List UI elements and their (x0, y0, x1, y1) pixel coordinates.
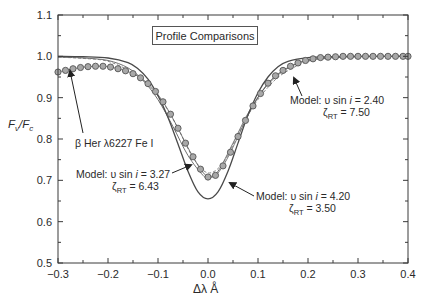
data-point-circle-icon (317, 54, 323, 60)
data-point-circle-icon (287, 63, 293, 69)
chart-title-text: Profile Comparisons (155, 30, 254, 42)
annotation-model-240: Model: υ sin i = 2.40 ζRT = 7.50 (290, 78, 384, 121)
x-tick-label: 0.4 (400, 268, 415, 280)
data-point-circle-icon (362, 53, 368, 59)
x-tick-label: 0.3 (350, 268, 365, 280)
data-point-circle-icon (302, 57, 308, 63)
arrow-icon (70, 71, 83, 133)
annotation-model-327-line2: ζRT = 6.43 (112, 180, 159, 195)
y-tick-label: 0.9 (37, 92, 52, 104)
annotation-model-420: Model: υ sin i = 4.20 ζRT = 3.50 (230, 183, 350, 217)
data-point-circle-icon (250, 103, 256, 109)
data-point-circle-icon (122, 68, 128, 74)
data-point-circle-icon (347, 53, 353, 59)
ylabel-slash-f: /F (19, 118, 29, 130)
annotation-model-327: Model: υ sin i = 3.27 ζRT = 6.43 (76, 165, 191, 195)
data-point-circle-icon (152, 88, 158, 94)
data-point-circle-icon (377, 53, 383, 59)
x-tick-label: 0.1 (250, 268, 265, 280)
x-tick-label: −0.1 (147, 268, 169, 280)
annotation-model-420-line2: ζRT = 3.50 (289, 202, 336, 217)
data-point-circle-icon (100, 63, 106, 69)
data-point-circle-icon (257, 90, 263, 96)
x-tick-label: 0.0 (200, 268, 215, 280)
data-point-circle-icon (272, 73, 278, 79)
data-point-circle-icon (325, 54, 331, 60)
data-point-circle-icon (182, 140, 188, 146)
annotation-model-240-line1: Model: υ sin i = 2.40 (290, 94, 384, 106)
ylabel-c: c (29, 124, 33, 133)
y-axis-label: Fν/Fc (8, 118, 33, 133)
y-tick-label: 1.1 (37, 9, 52, 21)
data-point-circle-icon (295, 60, 301, 66)
annotation-observed: β Her λ6227 Fe I (70, 71, 153, 149)
data-point-circle-icon (392, 53, 398, 59)
data-point-circle-icon (92, 63, 98, 69)
annotation-observed-label: β Her λ6227 Fe I (75, 137, 153, 149)
data-point-circle-icon (107, 64, 113, 70)
annotation-model-240-line2: ζRT = 7.50 (323, 106, 370, 121)
data-point-circle-icon (197, 166, 203, 172)
data-point-circle-icon (175, 125, 181, 131)
ylabel-f: F (8, 118, 15, 130)
data-point-circle-icon (235, 133, 241, 139)
data-point-circle-icon (137, 75, 143, 81)
data-point-circle-icon (212, 172, 218, 178)
data-point-circle-icon (385, 53, 391, 59)
y-tick-label: 0.5 (37, 257, 52, 269)
chart-canvas: −0.3−0.2−0.10.00.10.20.30.40.50.60.70.80… (0, 0, 424, 302)
data-point-circle-icon (355, 53, 361, 59)
x-tick-label: −0.2 (97, 268, 119, 280)
annotation-model-327-line1: Model: υ sin i = 3.27 (76, 168, 170, 180)
data-point-circle-icon (220, 163, 226, 169)
chart-title: Profile Comparisons (152, 26, 258, 45)
data-point-circle-icon (310, 56, 316, 62)
data-point-circle-icon (160, 99, 166, 105)
data-point-circle-icon (242, 117, 248, 123)
y-tick-label: 0.7 (37, 174, 52, 186)
data-point-circle-icon (130, 71, 136, 77)
data-point-circle-icon (145, 81, 151, 87)
data-point-circle-icon (227, 149, 233, 155)
data-point-circle-icon (85, 64, 91, 70)
data-point-circle-icon (340, 53, 346, 59)
data-point-circle-icon (70, 66, 76, 72)
x-axis-label: Δλ Å (193, 282, 218, 296)
y-tick-label: 0.6 (37, 216, 52, 228)
data-point-circle-icon (332, 54, 338, 60)
y-tick-label: 1.0 (37, 50, 52, 62)
x-tick-label: 0.2 (300, 268, 315, 280)
y-tick-label: 0.8 (37, 133, 52, 145)
data-point-circle-icon (280, 67, 286, 73)
data-point-circle-icon (115, 66, 121, 72)
data-point-circle-icon (370, 53, 376, 59)
arrow-icon (230, 183, 254, 196)
data-point-circle-icon (62, 67, 68, 73)
annotation-model-420-line1: Model: υ sin i = 4.20 (256, 190, 350, 202)
data-point-circle-icon (190, 154, 196, 160)
data-point-circle-icon (167, 111, 173, 117)
data-point-circle-icon (265, 80, 271, 86)
data-point-circle-icon (77, 64, 83, 70)
x-tick-label: −0.3 (47, 268, 69, 280)
data-point-circle-icon (205, 174, 211, 180)
